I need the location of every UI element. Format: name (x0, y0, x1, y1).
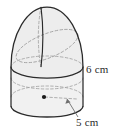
geometry-figure: 6 cm 5 cm (0, 0, 119, 133)
base-center-dot (42, 95, 46, 99)
height-dimension-label: 6 cm (86, 64, 109, 75)
radius-dimension-label: 5 cm (76, 117, 99, 128)
dome-fill (11, 7, 83, 78)
